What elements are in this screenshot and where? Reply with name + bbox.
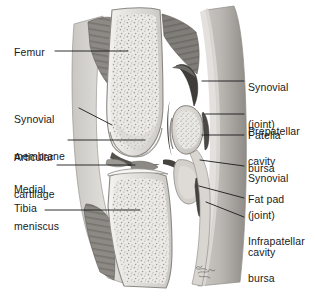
label-synovial-cavity-upper-line1: Synovial	[248, 81, 314, 93]
label-infrapatellar-bursa-line2: bursa	[248, 272, 314, 284]
anatomy-femur	[107, 8, 163, 157]
label-infrapatellar-bursa-line1: Infrapatellar	[248, 235, 314, 247]
anatomy-patella	[170, 106, 203, 154]
label-medial-meniscus-line2: meniscus	[14, 220, 94, 232]
label-patella: Patella	[248, 129, 281, 141]
knee-joint-figure: Femur Synovial membrane Articular cartil…	[0, 0, 315, 298]
label-synovial-cavity-lower-line1: Synovial	[248, 172, 314, 184]
label-fat-pad: Fat pad	[248, 193, 284, 205]
label-medial-meniscus-line1: Medial	[14, 183, 94, 195]
label-femur: Femur	[14, 46, 45, 58]
label-infrapatellar-bursa: Infrapatellar bursa	[248, 211, 314, 298]
label-tibia: Tibia	[14, 202, 37, 214]
label-synovial-membrane-line1: Synovial	[14, 113, 94, 125]
